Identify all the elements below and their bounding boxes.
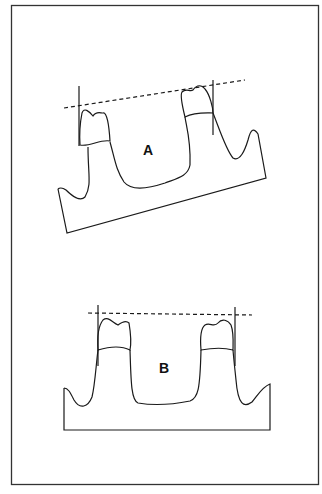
- tooth-a-right: [181, 86, 213, 117]
- tooth-b-left: [98, 319, 131, 350]
- occlusal-plane-line-a: [64, 80, 245, 108]
- figure-frame: [12, 6, 319, 485]
- panel-label-b: B: [159, 360, 169, 376]
- tooth-b-right: [201, 320, 234, 350]
- dental-diagram: A B: [0, 0, 322, 494]
- arch-outline-a: [58, 113, 266, 233]
- tooth-a-left: [80, 110, 110, 145]
- occlusal-plane-line-b: [88, 313, 252, 315]
- panel-label-a: A: [143, 142, 153, 158]
- panel-a: [58, 80, 266, 233]
